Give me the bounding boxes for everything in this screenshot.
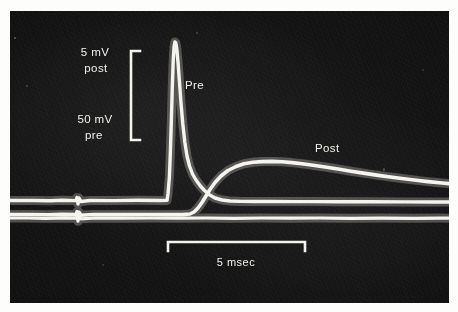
presynaptic-trace-label: Pre [185,79,204,91]
calibration-bottom-value-label: 50 mV [77,113,112,125]
time-scale-label: 5 msec [217,256,255,268]
calibration-bottom-channel-label: pre [85,129,103,141]
voltage-calibration-bracket-path [131,51,140,140]
voltage-calibration-bracket [131,51,140,140]
calibration-top-value-label: 5 mV [81,46,109,58]
annotation-layer: 5 mV post 50 mV pre Pre Post 5 msec [10,11,449,303]
time-calibration-bar-path [168,242,305,251]
oscilloscope-photo-plate: 5 mV post 50 mV pre Pre Post 5 msec [10,11,449,303]
time-calibration-bar [168,242,305,251]
figure-root: 5 mV post 50 mV pre Pre Post 5 msec [0,0,458,312]
postsynaptic-trace-label: Post [315,142,340,154]
calibration-top-channel-label: post [84,62,108,74]
